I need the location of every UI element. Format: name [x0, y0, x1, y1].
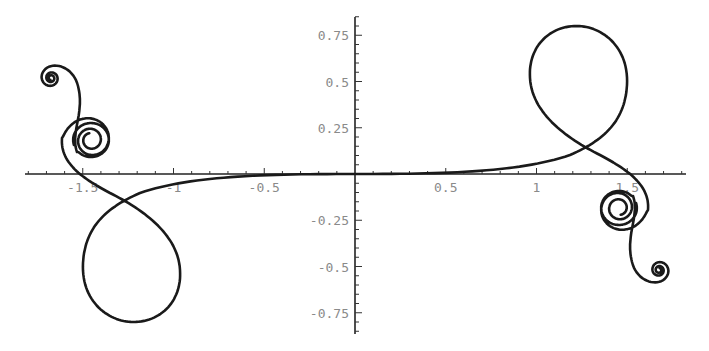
y-tick-label: -0.25 [310, 213, 349, 228]
y-tick-label: 0.75 [318, 28, 349, 43]
x-tick-label: 1 [533, 180, 541, 195]
plot: -1.5-1-0.50.511.5 0.750.50.25-0.25-0.5-0… [0, 0, 709, 351]
x-tick-label: 0.5 [434, 180, 457, 195]
x-tick-label: -0.5 [249, 180, 280, 195]
y-tick-label: 0.5 [326, 75, 349, 90]
y-tick-label: -0.75 [310, 306, 349, 321]
axes: -1.5-1-0.50.511.5 0.750.50.25-0.25-0.5-0… [25, 17, 686, 334]
y-tick-label: 0.25 [318, 121, 349, 136]
y-tick-label: -0.5 [318, 260, 349, 275]
